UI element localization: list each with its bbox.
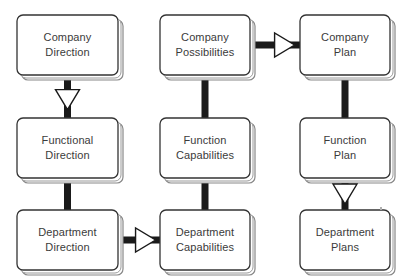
node-face-department-direction[interactable] xyxy=(17,210,118,270)
node-company-possibilities[interactable] xyxy=(160,15,255,80)
node-company-plan[interactable] xyxy=(300,15,395,80)
arrowhead-function-plan-to-department-plans xyxy=(333,184,357,204)
node-department-direction[interactable] xyxy=(17,210,123,275)
artifact-scan-speck xyxy=(380,207,382,210)
node-face-company-plan[interactable] xyxy=(300,15,390,75)
node-department-capabilities[interactable] xyxy=(160,210,255,275)
node-functional-direction[interactable] xyxy=(17,118,123,183)
node-department-plans[interactable] xyxy=(300,210,395,275)
node-function-capabilities[interactable] xyxy=(160,118,255,183)
diagram-canvas: CompanyDirectionCompanyPossibilitiesComp… xyxy=(0,0,410,279)
diagram-graphics xyxy=(0,0,410,279)
node-face-function-plan[interactable] xyxy=(300,118,390,178)
node-face-function-capabilities[interactable] xyxy=(160,118,250,178)
node-face-department-capabilities[interactable] xyxy=(160,210,250,270)
node-face-functional-direction[interactable] xyxy=(17,118,118,178)
boxes-layer xyxy=(17,15,395,275)
arrowhead-department-direction-to-department-capabilities xyxy=(136,228,156,252)
node-company-direction[interactable] xyxy=(17,15,123,80)
artifacts-layer xyxy=(380,207,382,210)
node-face-company-direction[interactable] xyxy=(17,15,118,75)
arrowhead-company-direction-to-functional-direction xyxy=(56,90,80,110)
node-function-plan[interactable] xyxy=(300,118,395,183)
arrowhead-company-possibilities-to-company-plan xyxy=(275,33,295,57)
node-face-company-possibilities[interactable] xyxy=(160,15,250,75)
node-face-department-plans[interactable] xyxy=(300,210,390,270)
